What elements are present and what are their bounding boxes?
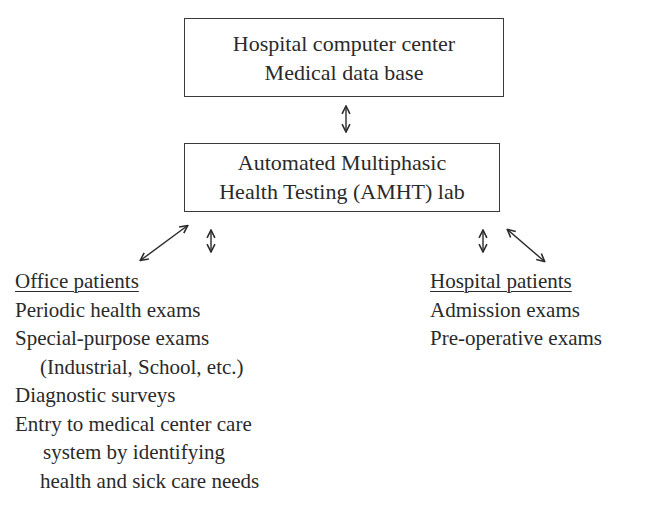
list-item: Periodic health exams (15, 296, 259, 325)
list-item: Diagnostic surveys (15, 381, 259, 410)
list-item: Admission exams (430, 296, 602, 325)
list-item: Pre-operative exams (430, 324, 602, 353)
list-item: health and sick care needs (15, 467, 259, 496)
list-item: system by identifying (15, 438, 259, 467)
office-patients-list: Office patients Periodic health exams Sp… (15, 267, 259, 495)
list-item: Entry to medical center care (15, 410, 259, 439)
arrow-diagonal-left-icon (141, 226, 187, 260)
hospital-patients-header: Hospital patients (430, 267, 602, 296)
office-patients-header: Office patients (15, 267, 259, 296)
list-item: (Industrial, School, etc.) (15, 353, 259, 382)
hospital-patients-list: Hospital patients Admission exams Pre-op… (430, 267, 602, 353)
list-item: Special-purpose exams (15, 324, 259, 353)
arrow-diagonal-right-icon (508, 230, 544, 261)
